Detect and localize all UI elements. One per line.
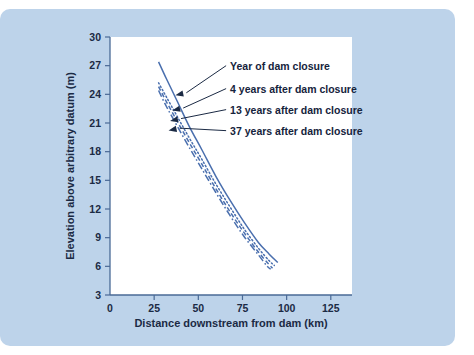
- x-tick-label: 75: [237, 302, 249, 314]
- x-tick-label: 25: [148, 302, 160, 314]
- annotation-label-0: Year of dam closure: [230, 60, 330, 72]
- annotation-label-2: 13 years after dam closure: [230, 104, 363, 116]
- x-tick-label: 100: [278, 302, 296, 314]
- figure-root: 36912151821242730 0255075100125 Year of …: [0, 0, 474, 355]
- y-tick-label: 21: [89, 117, 101, 129]
- x-axis-title: Distance downstream from dam (km): [134, 317, 327, 329]
- y-tick-label: 3: [95, 289, 101, 301]
- chart-canvas: 36912151821242730 0255075100125 Year of …: [0, 0, 474, 355]
- y-axis-ticks: 36912151821242730: [89, 31, 110, 301]
- plot-area-background: [110, 37, 352, 295]
- y-axis-title: Elevation above arbitrary datum (m): [64, 72, 76, 260]
- y-tick-label: 27: [89, 59, 101, 71]
- y-tick-label: 15: [89, 174, 101, 186]
- y-tick-label: 24: [89, 88, 101, 100]
- annotation-label-3: 37 years after dam closure: [230, 125, 363, 137]
- x-tick-label: 50: [192, 302, 204, 314]
- x-tick-label: 125: [322, 302, 340, 314]
- y-tick-label: 9: [95, 231, 101, 243]
- y-tick-label: 6: [95, 260, 101, 272]
- x-tick-label: 0: [107, 302, 113, 314]
- y-tick-label: 30: [89, 31, 101, 43]
- x-axis-ticks: 0255075100125: [107, 295, 340, 314]
- y-tick-label: 12: [89, 203, 101, 215]
- y-tick-label: 18: [89, 145, 101, 157]
- annotation-label-1: 4 years after dam closure: [230, 83, 357, 95]
